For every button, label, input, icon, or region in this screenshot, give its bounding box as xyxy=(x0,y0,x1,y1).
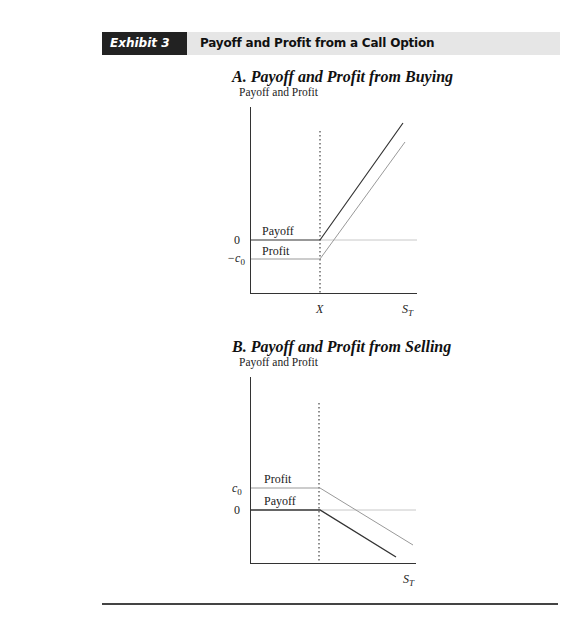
panel-a-y-tick-premium: −c0 xyxy=(227,251,245,267)
panel-b-y-tick-premium: c0 xyxy=(232,481,242,497)
panel-a-chart: Payoff Profit 0 −c0 X ST xyxy=(227,107,417,318)
panel-a-x-tick-strike: X xyxy=(315,302,324,316)
payoff-diagrams: Payoff Profit 0 −c0 X ST Profit Payoff c… xyxy=(0,0,578,631)
panel-a-profit-line xyxy=(251,142,405,259)
panel-a-payoff-label: Payoff xyxy=(262,224,294,238)
panel-b-profit-label: Profit xyxy=(264,472,292,486)
panel-b-x-axis-label: ST xyxy=(403,572,415,588)
panel-a-payoff-line xyxy=(251,123,403,240)
panel-b-chart: Profit Payoff c0 0 ST xyxy=(232,377,416,588)
bottom-rule xyxy=(102,603,558,605)
panel-b-payoff-line xyxy=(251,510,396,557)
panel-b-payoff-label: Payoff xyxy=(264,494,296,508)
panel-a-profit-label: Profit xyxy=(262,244,290,258)
panel-b-y-tick-zero: 0 xyxy=(234,503,240,517)
panel-a-y-tick-zero: 0 xyxy=(234,233,240,247)
panel-a-x-axis-label: ST xyxy=(402,302,414,318)
